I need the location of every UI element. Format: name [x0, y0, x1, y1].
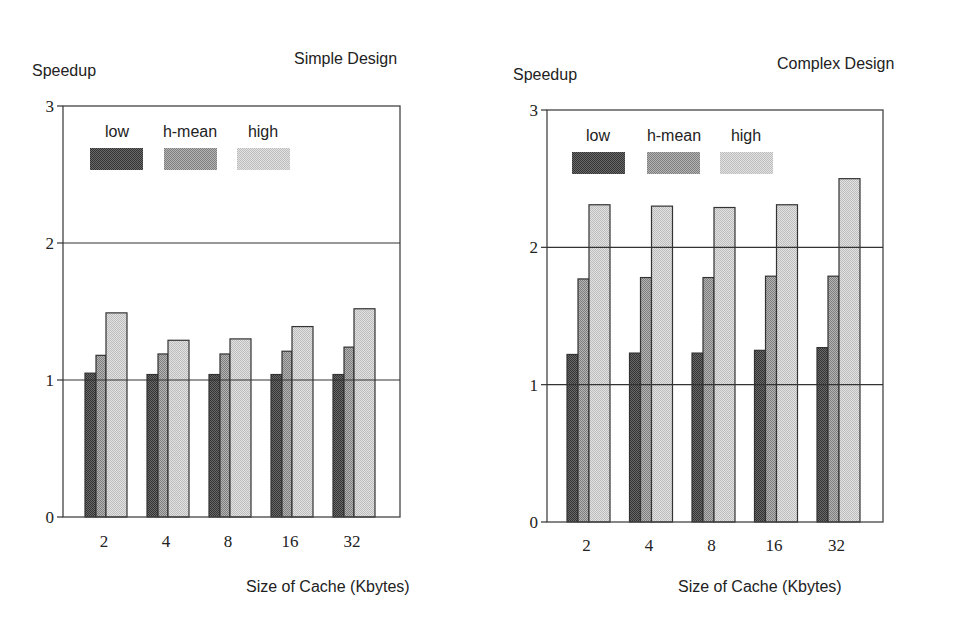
- x-tick-label: 4: [645, 536, 654, 555]
- x-tick-label: 2: [582, 536, 591, 555]
- legend-swatch-low: [572, 152, 625, 174]
- x-tick-label: 32: [344, 532, 361, 551]
- bar-h-mean-32: [344, 347, 354, 517]
- x-tick-label: 16: [282, 532, 299, 551]
- bar-low-8: [209, 375, 220, 517]
- legend-swatch-h-mean: [164, 148, 217, 170]
- legend-label-h-mean: h-mean: [163, 123, 217, 140]
- chart-title: Simple Design: [294, 50, 397, 67]
- bar-h-mean-16: [766, 276, 777, 522]
- y-tick-label: 1: [46, 371, 55, 390]
- bar-high-8: [714, 208, 735, 522]
- bar-low-16: [271, 375, 282, 517]
- bar-low-4: [630, 353, 641, 522]
- bar-h-mean-4: [641, 278, 652, 522]
- x-axis-label: Size of Cache (Kbytes): [246, 578, 410, 595]
- bar-h-mean-8: [703, 278, 714, 522]
- y-tick-label: 3: [46, 97, 55, 116]
- bars: [567, 179, 860, 522]
- bar-low-32: [817, 348, 828, 522]
- legend-swatch-high: [237, 148, 290, 170]
- legend-swatch-h-mean: [647, 152, 700, 174]
- charts-svg: SpeedupSimple Design01232481632Size of C…: [0, 0, 956, 628]
- bar-low-4: [147, 375, 158, 517]
- bar-high-32: [354, 309, 375, 517]
- x-axis-label: Size of Cache (Kbytes): [678, 578, 842, 595]
- y-tick-label: 1: [530, 376, 539, 395]
- bar-high-32: [839, 179, 860, 522]
- bars: [85, 309, 375, 517]
- simple-design-chart: SpeedupSimple Design01232481632Size of C…: [32, 50, 410, 595]
- y-tick-label: 2: [530, 238, 539, 257]
- y-tick-label: 3: [530, 101, 539, 120]
- bar-high-2: [106, 313, 127, 517]
- bar-high-16: [777, 205, 798, 522]
- bar-low-2: [567, 354, 578, 522]
- bar-low-8: [692, 353, 703, 522]
- legend-label-h-mean: h-mean: [647, 127, 701, 144]
- complex-design-chart: SpeedupComplex Design01232481632Size of …: [513, 55, 894, 595]
- bar-h-mean-16: [282, 351, 292, 517]
- bar-high-4: [652, 206, 673, 522]
- legend-swatch-high: [720, 152, 773, 174]
- legend: lowh-meanhigh: [90, 123, 290, 170]
- y-axis-label: Speedup: [513, 66, 577, 83]
- y-tick-label: 0: [530, 513, 539, 532]
- x-tick-label: 4: [162, 532, 171, 551]
- bar-low-2: [85, 373, 96, 517]
- bar-high-4: [168, 340, 189, 517]
- legend: lowh-meanhigh: [572, 127, 773, 174]
- bar-low-16: [755, 350, 766, 522]
- x-tick-label: 16: [766, 536, 783, 555]
- bar-h-mean-4: [158, 354, 168, 517]
- legend-label-high: high: [731, 127, 761, 144]
- chart-title: Complex Design: [777, 55, 894, 72]
- legend-label-low: low: [586, 127, 610, 144]
- figure: SpeedupSimple Design01232481632Size of C…: [0, 0, 956, 628]
- legend-label-high: high: [248, 123, 278, 140]
- x-tick-label: 8: [224, 532, 233, 551]
- bar-high-16: [292, 327, 313, 517]
- bar-low-32: [333, 375, 344, 517]
- y-tick-label: 2: [46, 234, 55, 253]
- bar-h-mean-8: [220, 354, 230, 517]
- legend-label-low: low: [105, 123, 129, 140]
- x-tick-label: 2: [100, 532, 109, 551]
- x-tick-label: 8: [707, 536, 716, 555]
- bar-h-mean-32: [828, 276, 839, 522]
- y-axis-label: Speedup: [32, 62, 96, 79]
- legend-swatch-low: [90, 148, 143, 170]
- bar-high-8: [230, 339, 251, 517]
- bar-high-2: [589, 205, 610, 522]
- bar-h-mean-2: [578, 279, 589, 522]
- y-tick-label: 0: [46, 508, 55, 527]
- x-tick-label: 32: [828, 536, 845, 555]
